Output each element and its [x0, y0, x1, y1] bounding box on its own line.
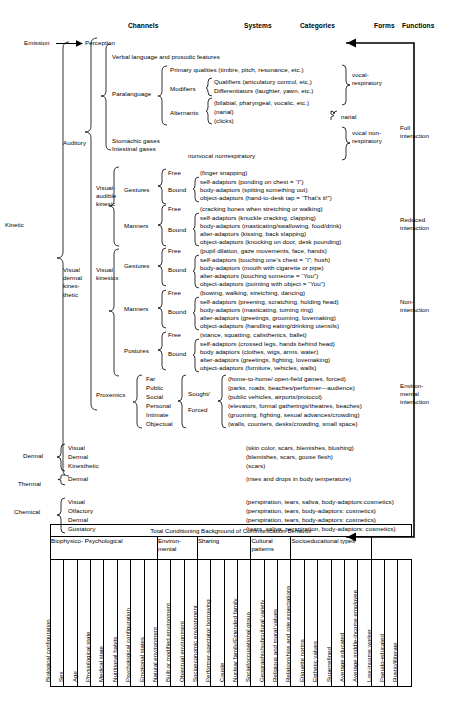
proxemics-forced-label: Forced: [188, 406, 208, 414]
proxemics-soughtforced-brace: [178, 374, 188, 430]
dermal-system-kinesthetic: Kinesthetic: [68, 462, 99, 470]
table-column-0: Biological configuration: [51, 560, 64, 687]
table-column-label: Etiquette norms: [298, 639, 305, 684]
dermal-brace: [57, 443, 67, 473]
gestures-va-bound-form-1: body-adaptors (spitting something out): [200, 186, 308, 194]
table-column-label: Nuclear family/Extended family: [231, 598, 238, 684]
table-column-label: Nutritional habits: [111, 637, 118, 684]
column-header-systems: Systems: [244, 22, 272, 29]
gestures-vk-bound-label: Bound: [168, 266, 186, 274]
category-gestures-va: Gestures: [124, 186, 150, 194]
system-label-proxemics: Proxemics: [96, 391, 125, 399]
gestures-va-free-form: (finger snapping): [200, 169, 247, 177]
function-environmental-interaction: Environ- mental interaction: [400, 382, 429, 407]
form-alternants-bilabial: (bilabial, pharyngeal, vocalic, etc.): [214, 99, 309, 107]
table-column-label: Age: [71, 671, 78, 684]
postures-bound-label: Bound: [168, 350, 186, 358]
table-column-label: Religious and moral values: [271, 609, 278, 684]
channel-label-dermal: Dermal: [23, 452, 43, 460]
table-column-row: Biological configurationSexAgePhysiologi…: [51, 560, 412, 687]
gestures-vk-bound-form-2: alter-adaptors (touching someone = “You”…: [200, 272, 318, 280]
dermal-form-2: (scars): [246, 462, 265, 470]
proxemics-form-0: (home-to-home/ open-field games, forced): [228, 375, 346, 383]
chemical-form-2: (perspiration, tears, body-adaptors: cos…: [246, 516, 376, 524]
thermal-brace: [57, 474, 67, 486]
table-column-label: Physiological state: [84, 632, 91, 684]
table-column-label: Rustic/illiterate: [391, 642, 398, 684]
category-postures: Postures: [124, 347, 149, 355]
manners-va-bound-form-3: object-adaptors (knocking on door, desk …: [200, 238, 341, 246]
function-vocal-non-respiratory: vocal non- respiratory: [352, 129, 382, 145]
function-non-interaction: Non- interaction: [400, 298, 429, 314]
gestures-vk-bound-form-0: self-adaptors (touching one’s chest = “I…: [200, 256, 330, 264]
proxemics-forms-brace: [218, 374, 228, 430]
table-title-row: Total Conditioning Background of Communi…: [51, 525, 412, 537]
proxemics-brace: [133, 374, 145, 430]
chemical-system-olfactory: Olfactory: [68, 507, 93, 515]
proxemics-distance-objectual: Objectual: [146, 420, 173, 428]
table-column-label: Relationships and role expectations: [284, 586, 291, 684]
dermal-system-visual: Visual: [68, 444, 85, 452]
proxemics-form-1: (parks, roads, beaches/performer—audienc…: [228, 384, 355, 392]
narial-brace: [330, 110, 339, 122]
manners-vk-bound-form-1: body-adaptors (masticating, turning ring…: [200, 306, 313, 314]
category-paralanguage: Paralanguage: [112, 90, 151, 98]
vocal-nonrespiratory-brace: [341, 126, 351, 162]
manners-vk-bound-label: Bound: [168, 308, 186, 316]
channel-label-visual-dermal-kinesthetic: Visual dermal kines- thetic: [63, 266, 82, 299]
gestures-va-free-label: Free: [168, 169, 181, 177]
manners-vk-brace: [158, 289, 168, 331]
form-differentiators: Differentiators (laughter, yawn, etc.): [214, 87, 313, 95]
postures-free-label: Free: [168, 331, 181, 339]
table-column-label: Performer-spectator borrowing: [204, 599, 211, 684]
channel-label-auditory: Auditory: [63, 139, 86, 147]
table-column-label: Esthetic values: [311, 641, 318, 684]
table-group-4: Socioeducational types: [291, 537, 371, 560]
dermal-system-dermal: Dermal: [68, 453, 88, 461]
form-alternants-clicks: (clicks): [214, 117, 234, 125]
table-column-label: Medical state: [97, 646, 104, 684]
manners-vk-bound-form-2: alter-adaptors (greetings, grooming, lov…: [200, 314, 336, 322]
manners-va-free-form: (cracking bones when stretching or walki…: [200, 205, 323, 213]
gestures-vk-bound-form-1: body-adaptors (mouth with cigarette or p…: [200, 264, 324, 272]
column-header-categories: Categories: [300, 22, 335, 29]
category-modifiers: Modifiers: [170, 85, 196, 93]
proxemics-distance-intimate: Intimate: [146, 411, 168, 419]
channel-label-kinetic: Kinetic: [5, 221, 24, 229]
manners-va-bound-form-0: self-adaptors (knuckle cracking, clappin…: [200, 214, 316, 222]
proxemics-form-2: (public vehicles, airports/protocol): [228, 393, 322, 401]
modifiers-brace: [206, 77, 214, 97]
table-column-label: Average educated: [338, 633, 345, 684]
visual-kinesics-brace: [108, 248, 122, 378]
table-column-label: Objectual environment: [178, 621, 185, 684]
function-reduced-interaction: Reduced interaction: [400, 216, 429, 232]
manners-vk-bound-form-3: object-adaptors (handling eating/drinkin…: [200, 322, 339, 330]
chemical-form-0: (perspiration, tears, saliva, body-adapt…: [246, 498, 394, 506]
table-column-label: Natural environment: [151, 627, 158, 684]
table-column-26: Rustic/illiterate: [398, 560, 412, 687]
paralanguage-brace: [158, 65, 170, 127]
proxemics-form-4: (grooming, fighting, sexual advances/cro…: [228, 411, 360, 419]
alternants-brace: [206, 97, 214, 126]
manners-va-bound-label: Bound: [168, 226, 186, 234]
form-qualifiers: Qualifiers (articulatory control, etc.): [214, 78, 312, 86]
gestures-va-bound-form-0: self-adaptors (ponding on chest = “I”): [200, 178, 304, 186]
postures-brace: [158, 331, 168, 373]
function-vocal-respiratory: vocal- respiratory: [352, 71, 382, 87]
table-column-label: Superrefined: [325, 647, 332, 684]
proxemics-sought-label: Sought/: [188, 390, 210, 398]
form-intestinal-gases: Intestinal gases: [112, 145, 156, 153]
category-alternants: Alternants: [170, 109, 198, 117]
form-verbal-language: Verbal language and prosodic features: [112, 53, 220, 61]
table-group-0: Biophysico- Psychological: [51, 537, 158, 560]
system-brace-auditory-kinetic: [72, 36, 98, 456]
table-column-label: Socioeconomic environment: [191, 605, 198, 684]
functions-feedback-loop: [330, 30, 467, 550]
column-header-functions: Functions: [402, 22, 434, 29]
manners-va-bound-form-2: alter-adaptors (kissing, back slapping): [200, 230, 306, 238]
manners-va-free-label: Free: [168, 205, 181, 213]
column-header-channels: Channels: [128, 22, 158, 29]
gestures-vk-free-label: Free: [168, 247, 181, 255]
category-manners-va: Manners: [124, 222, 148, 230]
manners-vk-free-form: (bowing, walking, stretching, dancing): [200, 289, 305, 297]
